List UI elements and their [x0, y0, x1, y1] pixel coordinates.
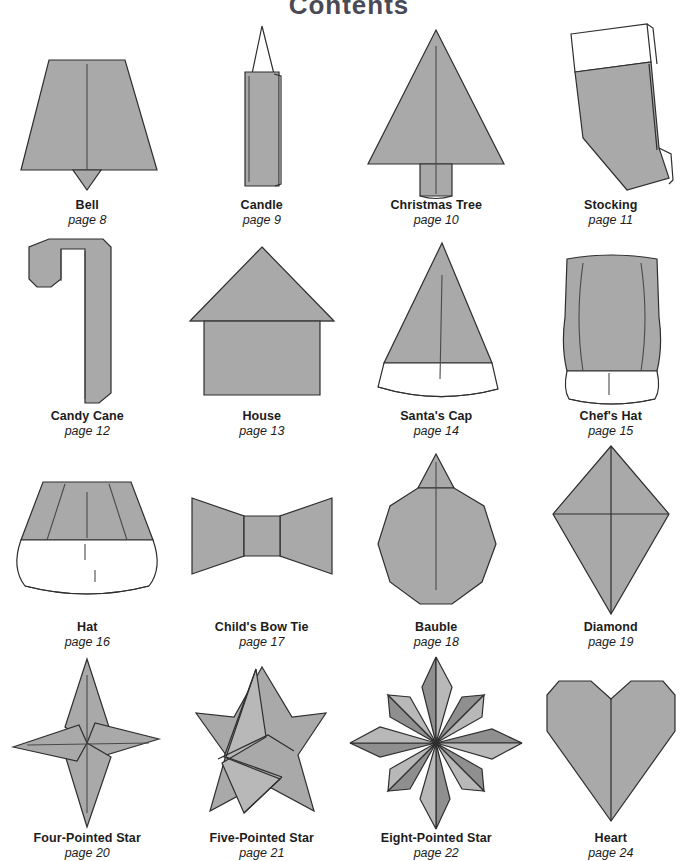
item-page: page 21 — [210, 846, 315, 860]
contents-grid: Bell page 8 Candle page 9 — [0, 18, 698, 861]
bow-tie-origami-figure — [175, 440, 350, 620]
item-name: Heart — [588, 831, 633, 845]
diamond-origami-figure — [524, 440, 698, 620]
contents-item-caption: Eight-Pointed Star page 22 — [381, 831, 492, 861]
contents-item-caption: Child's Bow Tie page 17 — [215, 620, 309, 650]
item-name: Candy Cane — [51, 409, 124, 423]
contents-item-bell[interactable]: Bell page 8 — [0, 18, 175, 229]
item-page: page 11 — [584, 213, 638, 227]
item-name: Five-Pointed Star — [210, 831, 315, 845]
five-pointed-star-origami-figure — [175, 651, 350, 831]
contents-page: Contents Bell page 8 — [0, 0, 698, 861]
contents-item-five-pointed-star[interactable]: Five-Pointed Star page 21 — [175, 651, 350, 861]
contents-item-caption: Stocking page 11 — [584, 198, 638, 228]
contents-item-caption: Four-Pointed Star page 20 — [34, 831, 141, 861]
item-page: page 20 — [34, 846, 141, 860]
contents-item-bow-tie[interactable]: Child's Bow Tie page 17 — [175, 440, 350, 651]
contents-item-house[interactable]: House page 13 — [175, 229, 350, 440]
contents-item-stocking[interactable]: Stocking page 11 — [524, 18, 698, 229]
contents-item-four-pointed-star[interactable]: Four-Pointed Star page 20 — [0, 651, 175, 861]
item-name: Bell — [68, 198, 106, 212]
contents-item-caption: Santa's Cap page 14 — [400, 409, 472, 439]
contents-item-santas-cap[interactable]: Santa's Cap page 14 — [349, 229, 524, 440]
contents-item-caption: House page 13 — [239, 409, 284, 439]
item-page: page 12 — [51, 424, 124, 438]
contents-item-diamond[interactable]: Diamond page 19 — [524, 440, 698, 651]
contents-item-christmas-tree[interactable]: Christmas Tree page 10 — [349, 18, 524, 229]
item-page: page 14 — [400, 424, 472, 438]
item-page: page 10 — [390, 213, 482, 227]
item-page: page 22 — [381, 846, 492, 860]
item-page: page 16 — [65, 635, 110, 649]
item-name: Bauble — [414, 620, 459, 634]
item-name: Candle — [241, 198, 283, 212]
contents-item-caption: Chef's Hat page 15 — [580, 409, 642, 439]
chefs-hat-origami-figure — [524, 229, 698, 409]
item-name: Eight-Pointed Star — [381, 831, 492, 845]
contents-item-caption: Diamond page 19 — [584, 620, 638, 650]
item-page: page 24 — [588, 846, 633, 860]
contents-item-caption: Bell page 8 — [68, 198, 106, 228]
item-page: page 18 — [414, 635, 459, 649]
item-name: Four-Pointed Star — [34, 831, 141, 845]
item-name: Stocking — [584, 198, 638, 212]
contents-item-caption: Heart page 24 — [588, 831, 633, 861]
heart-origami-figure — [524, 651, 698, 831]
four-pointed-star-origami-figure — [0, 651, 175, 831]
contents-item-caption: Five-Pointed Star page 21 — [210, 831, 315, 861]
bell-origami-figure — [0, 18, 175, 198]
item-name: Diamond — [584, 620, 638, 634]
contents-item-caption: Candle page 9 — [241, 198, 283, 228]
eight-pointed-star-origami-figure — [349, 651, 524, 831]
hat-origami-figure — [0, 440, 175, 620]
item-page: page 9 — [241, 213, 283, 227]
contents-item-candy-cane[interactable]: Candy Cane page 12 — [0, 229, 175, 440]
house-origami-figure — [175, 229, 350, 409]
item-name: Chef's Hat — [580, 409, 642, 423]
item-page: page 17 — [215, 635, 309, 649]
contents-item-candle[interactable]: Candle page 9 — [175, 18, 350, 229]
candy-cane-origami-figure — [0, 229, 175, 409]
item-page: page 15 — [580, 424, 642, 438]
stocking-origami-figure — [524, 18, 698, 198]
contents-item-eight-pointed-star[interactable]: Eight-Pointed Star page 22 — [349, 651, 524, 861]
santas-cap-origami-figure — [349, 229, 524, 409]
item-page: page 13 — [239, 424, 284, 438]
item-name: Hat — [65, 620, 110, 634]
candle-origami-figure — [175, 18, 350, 198]
item-name: Christmas Tree — [390, 198, 482, 212]
bauble-origami-figure — [349, 440, 524, 620]
item-name: Child's Bow Tie — [215, 620, 309, 634]
contents-item-caption: Hat page 16 — [65, 620, 110, 650]
christmas-tree-origami-figure — [349, 18, 524, 198]
item-page: page 8 — [68, 213, 106, 227]
contents-item-hat[interactable]: Hat page 16 — [0, 440, 175, 651]
contents-item-heart[interactable]: Heart page 24 — [524, 651, 698, 861]
item-name: Santa's Cap — [400, 409, 472, 423]
contents-item-caption: Candy Cane page 12 — [51, 409, 124, 439]
contents-item-bauble[interactable]: Bauble page 18 — [349, 440, 524, 651]
contents-item-chefs-hat[interactable]: Chef's Hat page 15 — [524, 229, 698, 440]
item-page: page 19 — [584, 635, 638, 649]
contents-item-caption: Christmas Tree page 10 — [390, 198, 482, 228]
contents-item-caption: Bauble page 18 — [414, 620, 459, 650]
item-name: House — [239, 409, 284, 423]
